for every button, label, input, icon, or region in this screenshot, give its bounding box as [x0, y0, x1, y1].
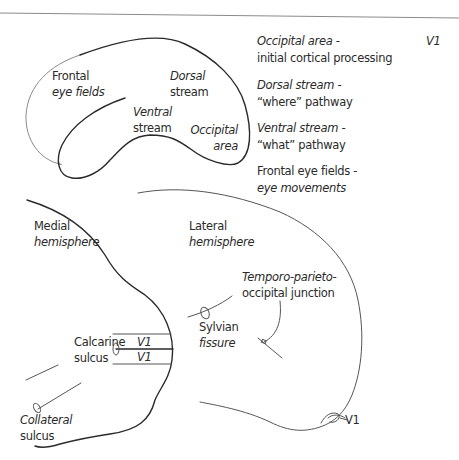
legend-description: eye movements [257, 180, 357, 197]
legend-description: “what” pathway [257, 137, 346, 154]
label-calcarine-sulcus: Calcarine sulcus [74, 334, 125, 366]
label-line: stream [133, 120, 172, 136]
label-line: Lateral [189, 218, 254, 234]
label-line: area [186, 138, 238, 154]
label-line: sulcus [20, 428, 72, 444]
label-v1-lower: V1 [137, 349, 152, 365]
label-frontal-eye-fields: Frontal eye fields [52, 68, 104, 100]
label-ventral-stream: Ventral stream [133, 104, 172, 136]
label-line: Frontal [52, 68, 104, 84]
legend-item-occipital: Occipital area - initial cortical proces… [257, 33, 392, 67]
legend-term: Frontal eye fields - [257, 163, 357, 180]
label-sylvian-fissure: Sylvian fissure [199, 319, 239, 351]
legend-description: initial cortical processing [257, 50, 392, 67]
label-line: hemisphere [34, 234, 99, 250]
label-line: Temporo-parieto- [242, 269, 336, 285]
label-v1-upper: V1 [137, 334, 152, 350]
legend-item-frontal: Frontal eye fields - eye movements [257, 163, 357, 197]
legend-term: Dorsal stream - [257, 77, 352, 94]
label-line: stream [170, 84, 209, 100]
label-lateral-hemisphere: Lateral hemisphere [189, 218, 254, 250]
label-occipital-area: Occipital area [186, 122, 238, 154]
label-dorsal-stream: Dorsal stream [170, 68, 209, 100]
label-line: Calcarine [74, 334, 125, 350]
label-line: Ventral [133, 104, 172, 120]
label-line: eye fields [52, 84, 104, 100]
label-line: Sylvian [199, 319, 239, 335]
legend-description: “where” pathway [257, 94, 352, 111]
label-line: Medial [34, 218, 99, 234]
legend-corner-v1: V1 [426, 33, 441, 49]
label-line: occipital junction [242, 285, 336, 301]
label-line: Dorsal [170, 68, 209, 84]
legend-item-ventral: Ventral stream - “what” pathway [257, 120, 346, 154]
label-line: fissure [199, 335, 239, 351]
label-collateral-sulcus: Collateral sulcus [20, 412, 72, 444]
legend-term: Occipital area - [257, 33, 392, 50]
top-rule [0, 13, 459, 18]
label-tpo-junction: Temporo-parieto- occipital junction [242, 269, 336, 301]
legend-item-dorsal: Dorsal stream - “where” pathway [257, 77, 352, 111]
label-v1-pole: V1 [345, 412, 360, 428]
label-line: Occipital [186, 122, 238, 138]
label-medial-hemisphere: Medial hemisphere [34, 218, 99, 250]
label-line: sulcus [74, 350, 125, 366]
legend-term: Ventral stream - [257, 120, 346, 137]
label-line: Collateral [20, 412, 72, 428]
label-line: hemisphere [189, 234, 254, 250]
